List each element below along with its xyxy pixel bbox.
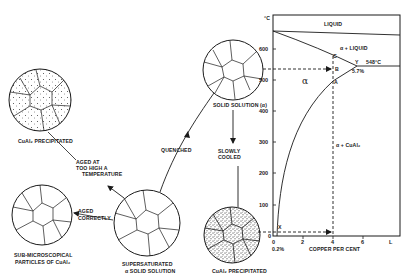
alpha-liquid-region-label: α + LIQUID [340,45,368,51]
aged-too-high-arrow [108,186,124,198]
eutectic-comp-label: 5.7% [352,68,365,74]
aged-correctly-label-line2: CORRECTLY [78,215,111,221]
age-hardening-diagram: SOLID SOLUTION (α) CuAl₂ PRECIPITATED [0,0,405,279]
bottom-precipitated-label: CuAl₂ PRECIPITATED [212,268,267,274]
y-tick-0: 0 [268,233,271,239]
phase-diagram: LIQUID C B A Y X 548°C 5.7% α + LIQUID α… [258,15,400,252]
slowly-cooled-label-line2: COOLED [218,154,241,160]
y-tick-500: 500 [259,77,268,83]
point-b: B [335,66,339,72]
slow-cooled-precipitate-circle [204,207,260,263]
supersaturated-label-line2: α SOLID SOLUTION [125,268,175,274]
y-tick-300: 300 [259,139,268,145]
y-tick-400: 400 [259,108,268,114]
point-x: X [278,224,282,230]
x-tick-4: 4 [331,239,335,245]
supersaturated-label-line1: SUPERSATURATED [122,261,173,267]
aged-correctly-label-line1: AGED [78,208,94,214]
sub-microscopical-circle [12,185,72,245]
quenched-label: QUENCHED [161,147,192,153]
sub-micro-label-line2: PARTICLES OF CuAl₂ [15,259,71,265]
y-tick-100: 100 [259,202,268,208]
solid-solution-grain-circle [203,40,263,100]
quenched-arrow [160,93,214,192]
aged-too-high-label-line3: TEMPERATURE [82,171,123,177]
sub-micro-label-line1: SUB-MICROSCOPICAL [14,252,73,258]
point-y: Y [355,59,359,65]
point-c: C [333,53,337,59]
y-axis-unit: °C [264,15,270,21]
x-tick-6: 6 [361,239,364,245]
top-left-leader-line [48,132,76,160]
x-tick-l: L [389,239,393,245]
liquid-region-label: LIQUID [324,21,342,27]
x-axis-label: COPPER PER CENT [309,246,361,252]
point-a: A [334,79,338,85]
y-tick-600: 600 [259,46,268,52]
supersaturated-circle [114,190,180,256]
quenched-arrowhead-icon [184,131,190,138]
alpha-cual2-region-label: α + CuAl₂ [336,142,361,148]
x-note-label: 0.2% [272,246,285,252]
phase-diagram-frame [273,15,400,236]
alpha-region-label: α [302,76,308,86]
x-tick-2: 2 [301,239,304,245]
overaged-precipitate-circle [9,69,71,131]
x-tick-0: 0 [272,239,275,245]
y-tick-200: 200 [259,170,268,176]
top-left-precipitated-label: CuAl₂ PRECIPITATED [18,138,73,144]
eutectic-temp-label: 548°C [366,59,381,65]
